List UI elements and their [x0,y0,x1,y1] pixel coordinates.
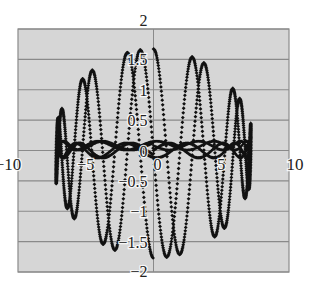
y-tick-label: −1 [130,203,147,220]
x-tick-label: 5 [217,156,225,173]
x-tick-label: 10 [287,155,304,174]
scatter-chart: −10−50510 −2−1.5−1−0.500.511.52 [0,0,311,290]
y-tick-label: 1.5 [128,51,148,68]
y-tick-label: −1.5 [118,234,147,251]
y-tick-label: 2 [140,12,148,29]
y-tick-label: 0.5 [128,112,148,129]
y-tick-label: −0.5 [118,173,147,190]
y-tick-label: 1 [140,82,148,99]
x-tick-label: 0 [154,156,162,173]
y-tick-label: −2 [130,263,147,280]
x-tick-label: −5 [77,156,94,173]
x-tick-label: −10 [0,155,21,174]
y-tick-label: 0 [140,143,148,160]
